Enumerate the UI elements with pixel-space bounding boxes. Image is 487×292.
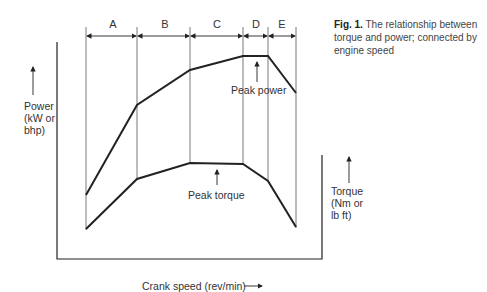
segment-label-c: C	[207, 18, 227, 30]
torque-axis-label: Torque (Nm or lb ft)	[331, 185, 363, 221]
peak-torque-label: Peak torque	[188, 189, 245, 201]
power-label-line2: (kW or	[24, 112, 55, 124]
x-axis-label: Crank speed (rev/min)	[142, 280, 246, 292]
power-label-line3: bhp)	[24, 124, 55, 136]
torque-label-line2: (Nm or	[331, 197, 363, 209]
power-curve	[86, 56, 296, 195]
power-label-line1: Power	[24, 100, 55, 112]
power-axis-label: Power (kW or bhp)	[24, 100, 55, 136]
torque-label-line3: lb ft)	[331, 209, 363, 221]
segment-label-e: E	[272, 18, 292, 30]
figure-number: Fig. 1.	[334, 19, 363, 30]
peak-power-label: Peak power	[231, 84, 286, 96]
segment-label-b: B	[155, 18, 175, 30]
figure-caption: Fig. 1. The relationship between torque …	[334, 18, 484, 57]
torque-label-line1: Torque	[331, 185, 363, 197]
segment-label-a: A	[103, 18, 123, 30]
segment-label-d: D	[246, 18, 266, 30]
